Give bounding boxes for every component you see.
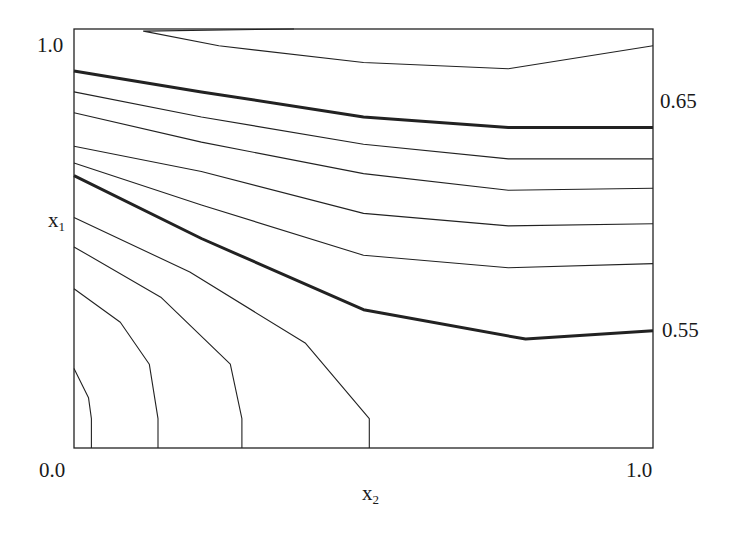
contour-line	[74, 113, 653, 191]
contour-line	[74, 289, 158, 448]
x-tick-origin: 0.0	[39, 460, 65, 481]
y-axis-var: x	[48, 208, 59, 232]
y-tick-top: 1.0	[37, 35, 63, 56]
x-tick-right: 1.0	[626, 460, 652, 481]
contour-label-055: 0.55	[662, 320, 699, 341]
contour-line	[74, 368, 91, 448]
contour-line	[74, 163, 653, 268]
x-axis-var: x	[362, 481, 373, 505]
contour-line-bold	[74, 71, 653, 128]
contour-line	[74, 146, 653, 226]
contour-line-bold	[74, 176, 653, 340]
contour-line	[74, 218, 369, 449]
contour-line	[144, 29, 654, 69]
x-axis-label: x2	[362, 483, 379, 506]
contour-plot	[0, 0, 737, 534]
y-axis-sub: 1	[59, 219, 66, 234]
x-axis-sub: 2	[373, 492, 380, 507]
contour-label-065: 0.65	[660, 91, 697, 112]
plot-frame	[74, 29, 653, 448]
y-axis-label: x1	[48, 210, 65, 233]
contour-line	[74, 92, 653, 159]
